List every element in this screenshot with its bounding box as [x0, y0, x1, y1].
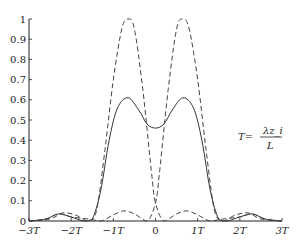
y-tick-label: 0.1	[10, 195, 26, 206]
axes: 00.10.20.30.40.50.60.70.80.91−3T−2T−1T01…	[10, 14, 290, 237]
y-tick-label: 0.7	[10, 74, 26, 85]
line-chart: 00.10.20.30.40.50.60.70.80.91−3T−2T−1T01…	[0, 0, 301, 247]
series-group	[29, 19, 282, 221]
x-tick-label: −1T	[103, 225, 126, 236]
y-tick-label: 0.9	[10, 34, 26, 45]
annotation-numerator: λz_i	[262, 125, 283, 137]
x-tick-label: 1T	[191, 225, 205, 236]
annotation-denominator: L	[266, 140, 274, 151]
y-tick-label: 1	[20, 14, 26, 25]
y-tick-label: 0.5	[10, 115, 26, 126]
series-right-beam	[29, 19, 282, 221]
x-tick-label: 3T	[275, 225, 289, 236]
y-tick-label: 0.6	[10, 94, 26, 105]
x-tick-label: −3T	[18, 225, 41, 236]
period-annotation: T= λz_i L	[238, 125, 283, 151]
x-tick-label: 0	[152, 225, 158, 236]
y-tick-label: 0.4	[10, 135, 26, 146]
y-tick-label: 0.8	[10, 54, 26, 65]
x-tick-label: −2T	[60, 225, 83, 236]
x-tick-label: 2T	[232, 225, 247, 236]
y-tick-label: 0.3	[10, 155, 26, 166]
annotation-lhs: T=	[238, 131, 253, 142]
series-left-beam	[29, 19, 282, 221]
y-tick-label: 0.2	[10, 175, 26, 186]
